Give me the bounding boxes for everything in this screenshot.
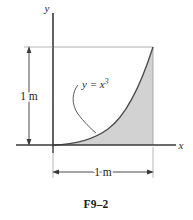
curve-equation-base: y = x xyxy=(81,78,105,90)
figure-container: y x 1 m 1 m y = x3 F9–2 xyxy=(0,0,193,220)
horizontal-dimension-label: 1 m xyxy=(94,166,112,178)
x-axis-label: x xyxy=(178,139,184,151)
figure-diagram: y x 1 m 1 m y = x3 F9–2 xyxy=(0,0,193,220)
curve-equation-label: y = x3 xyxy=(81,77,109,90)
figure-caption: F9–2 xyxy=(83,198,108,210)
curve-equation-exponent: 3 xyxy=(104,77,109,86)
curve-label-leader-line xyxy=(73,85,96,133)
vertical-dimension-label: 1 m xyxy=(20,90,38,102)
shaded-region xyxy=(53,47,153,145)
y-axis-label: y xyxy=(44,2,50,14)
